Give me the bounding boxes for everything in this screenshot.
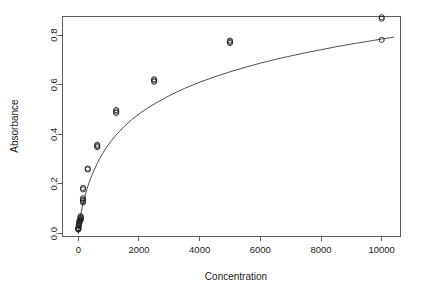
y-tick-label: 0.8	[48, 28, 59, 41]
x-tick-label: 2000	[128, 244, 149, 255]
plot-root: 0200040006000800010000 0.00.20.40.60.8 C…	[0, 0, 422, 295]
x-tick-label: 0	[76, 244, 81, 255]
y-tick-label: 0.6	[48, 78, 59, 91]
x-tick-label: 4000	[189, 244, 210, 255]
absorbance-concentration-chart: 0200040006000800010000 0.00.20.40.60.8 C…	[0, 0, 422, 295]
x-tick-label: 8000	[310, 244, 331, 255]
y-tick-label: 0.2	[48, 177, 59, 190]
y-tick-label: 0.4	[48, 128, 59, 141]
y-tick-label: 0.0	[48, 227, 59, 240]
chart-background	[0, 0, 422, 295]
y-axis-title: Absorbance	[9, 99, 20, 153]
x-tick-label: 6000	[250, 244, 271, 255]
x-tick-label: 10000	[368, 244, 394, 255]
x-axis-title: Concentration	[205, 271, 267, 282]
